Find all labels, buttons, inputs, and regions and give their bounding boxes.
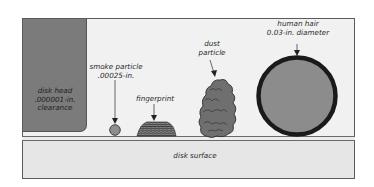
fingerprint-arrow [151, 104, 157, 121]
human-hair-arrow [294, 44, 300, 56]
disk-surface-label: disk surface [165, 152, 225, 161]
human-hair-diameter: 0.03-in. diameter [262, 29, 334, 38]
smoke-particle-arrow [112, 80, 118, 124]
smoke-particle-label: smoke particle .00025-in. [84, 63, 148, 80]
smoke-particle-size: .00025-in. [84, 72, 148, 81]
human-hair-icon [259, 58, 336, 135]
fingerprint-label: fingerprint [130, 95, 180, 104]
dust-particle-label-line-2: particle [192, 49, 232, 58]
smoke-particle-icon [110, 125, 121, 136]
dust-particle-icon [199, 80, 236, 138]
dust-particle-label: dust particle [192, 40, 232, 57]
fingerprint-icon [137, 122, 176, 136]
human-hair-label: human hair 0.03-in. diameter [262, 20, 334, 37]
dust-particle-arrow [210, 60, 217, 77]
